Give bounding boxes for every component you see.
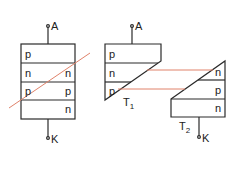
anode-terminal-icon — [47, 25, 50, 28]
t1-label: T1 — [123, 96, 135, 111]
t1-anode-label: A — [135, 20, 143, 32]
layer-label: n — [25, 67, 31, 79]
layer-label: n — [215, 66, 221, 78]
t2-label: T2 — [179, 120, 191, 135]
layer-label: p — [65, 85, 71, 97]
layer-label: p — [215, 84, 221, 96]
t1-anode-terminal-icon — [131, 25, 134, 28]
cathode-label: K — [51, 133, 59, 145]
t2-cathode-terminal-icon — [198, 136, 201, 139]
layer-label: p — [109, 48, 115, 60]
cathode-terminal-icon — [47, 137, 50, 140]
layer-label: p — [109, 85, 115, 97]
layer-label: p — [25, 48, 31, 60]
thyristor-two-transistor-diagram: A K p n n p p n A p n p T1 K n p n T2 — [0, 0, 241, 196]
layer-label: n — [215, 102, 221, 114]
anode-label: A — [51, 20, 59, 32]
layer-label: n — [65, 67, 71, 79]
layer-label: n — [109, 67, 115, 79]
t2-cathode-label: K — [202, 132, 210, 144]
layer-label: n — [65, 103, 71, 115]
layer-label: p — [25, 85, 31, 97]
